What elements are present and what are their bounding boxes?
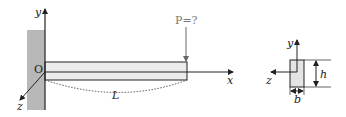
beam [45,62,187,80]
z-axis-label: z [16,100,23,113]
section-y-label: y [286,37,294,50]
length-label: L [111,89,119,102]
load-label: P=? [175,14,198,27]
x-axis-label: x [227,74,234,87]
y-axis-label: y [34,6,42,19]
height-label: h [320,68,327,81]
width-label: b [294,93,301,106]
cantilever-diagram: y O x z L P=? y z h b [0,0,346,117]
section-z-label: z [265,74,272,87]
origin-label: O [34,63,43,76]
